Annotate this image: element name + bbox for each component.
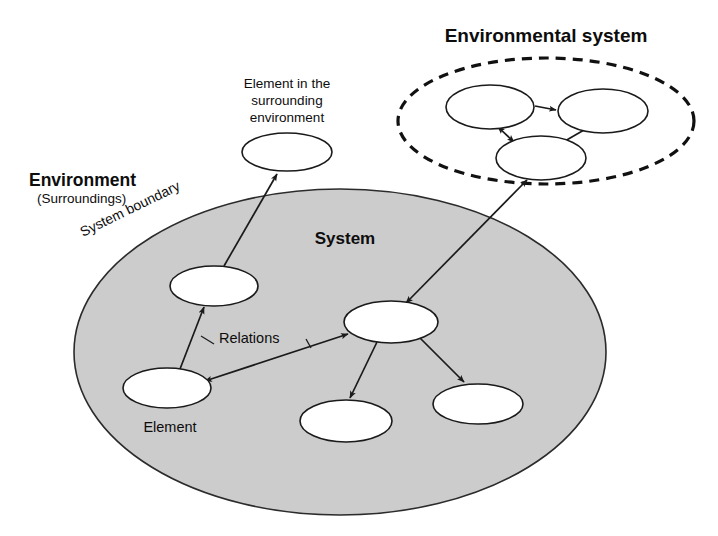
system-node-upper-left [170, 266, 258, 306]
system-node-center [344, 301, 438, 343]
relations-label: Relations [219, 330, 279, 346]
external-element-ellipse [242, 133, 332, 171]
system-node-bottom-mid [300, 400, 392, 442]
system-node-element [123, 368, 211, 408]
system-node-bottom-right [433, 384, 523, 424]
edge-env-top-left-to-top-right [535, 106, 556, 110]
system-label: System [315, 229, 375, 248]
env-node-top-left [446, 85, 534, 129]
edge-env-bottom-to-top-left [498, 127, 514, 142]
external-element-label-line1: Element in the [244, 76, 330, 91]
diagram-canvas: Environmental system Environment (Surrou… [0, 0, 718, 536]
env-node-bottom [496, 136, 586, 180]
surroundings-label: (Surroundings) [37, 191, 126, 206]
element-label: Element [143, 419, 196, 435]
systems-diagram: Environmental system Environment (Surrou… [0, 0, 718, 536]
environment-label: Environment [29, 170, 136, 190]
environmental-system-title: Environmental system [445, 25, 648, 46]
external-element-label-line2: surrounding [251, 93, 322, 108]
external-element-label-line3: environment [250, 110, 325, 125]
env-node-top-right [558, 89, 648, 133]
